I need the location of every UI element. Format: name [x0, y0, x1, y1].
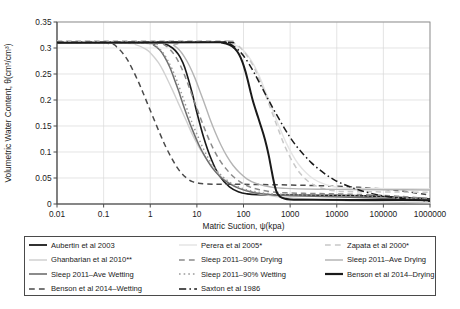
legend-item-label: Zapata et al 2000* — [347, 241, 409, 250]
legend-line-swatch — [178, 240, 198, 250]
legend-item-label: Sleep 2011–Ave Wetting — [51, 270, 134, 279]
legend-line-swatch — [28, 284, 48, 294]
svg-text:1000: 1000 — [281, 209, 300, 219]
svg-text:100: 100 — [237, 209, 251, 219]
svg-text:0.1: 0.1 — [98, 209, 110, 219]
svg-text:0.3: 0.3 — [40, 43, 52, 53]
svg-text:0.15: 0.15 — [35, 121, 52, 131]
svg-text:1: 1 — [148, 209, 153, 219]
svg-text:0.25: 0.25 — [35, 69, 52, 79]
svg-text:Matric Suction, ψ(kpa): Matric Suction, ψ(kpa) — [203, 221, 285, 231]
legend-grid: Aubertin et al 2003Perera et al 2005*Zap… — [25, 237, 435, 296]
legend-item[interactable]: Benson et al 2014–Drying — [324, 267, 440, 282]
legend-item-label: Aubertin et al 2003 — [51, 241, 115, 250]
svg-text:100000: 100000 — [370, 209, 398, 219]
legend-line-swatch — [324, 240, 344, 250]
legend-item-label: Sleep 2011–Ave Drying — [347, 255, 426, 264]
legend-line-swatch — [28, 240, 48, 250]
svg-text:0.2: 0.2 — [40, 95, 52, 105]
y-tick-labels: 00.050.10.150.20.250.30.35 — [35, 17, 52, 209]
svg-text:0.05: 0.05 — [35, 173, 52, 183]
plot-area: 0.010.11101001000100001000001000000 00.0… — [0, 0, 460, 232]
svg-text:10000: 10000 — [325, 209, 348, 219]
legend-line-swatch — [178, 255, 198, 265]
legend-item-label: Benson et al 2014–Drying — [347, 270, 434, 279]
legend-item[interactable]: Perera et al 2005* — [178, 238, 324, 253]
legend-item[interactable]: Saxton et al 1986 — [178, 282, 324, 297]
legend-item[interactable]: Benson et al 2014–Wetting — [28, 282, 178, 297]
legend-line-swatch — [28, 269, 48, 279]
legend-item-label: Benson et al 2014–Wetting — [51, 284, 142, 293]
svg-text:0.35: 0.35 — [35, 17, 52, 27]
legend-line-swatch — [28, 255, 48, 265]
legend-item[interactable]: Ghanbarian et al 2010** — [28, 253, 178, 268]
svg-text:0: 0 — [47, 199, 52, 209]
legend-item-label: Sleep 2011–90% Drying — [201, 255, 282, 264]
svg-text:Volumetric Water Content, θ(cm: Volumetric Water Content, θ(cm³/cm³) — [3, 43, 13, 182]
svg-text:1000000: 1000000 — [414, 209, 447, 219]
legend-item[interactable]: Zapata et al 2000* — [324, 238, 440, 253]
swcc-line-chart: 0.010.11101001000100001000001000000 00.0… — [0, 0, 460, 232]
legend-item-label: Saxton et al 1986 — [201, 284, 260, 293]
svg-text:0.01: 0.01 — [49, 209, 66, 219]
legend-line-swatch — [324, 269, 344, 279]
chart-figure: 0.010.11101001000100001000001000000 00.0… — [0, 0, 460, 309]
legend-item-label: Sleep 2011–90% Wetting — [201, 270, 286, 279]
x-tick-labels: 0.010.11101001000100001000001000000 — [49, 209, 447, 219]
legend-item-label: Ghanbarian et al 2010** — [51, 255, 132, 264]
legend-item-label: Perera et al 2005* — [201, 241, 262, 250]
legend-item[interactable]: Sleep 2011–Ave Wetting — [28, 267, 178, 282]
svg-text:10: 10 — [192, 209, 202, 219]
svg-text:0.1: 0.1 — [40, 147, 52, 157]
legend-item[interactable]: Sleep 2011–Ave Drying — [324, 253, 440, 268]
legend-item[interactable]: Sleep 2011–90% Wetting — [178, 267, 324, 282]
legend-line-swatch — [178, 269, 198, 279]
legend-item[interactable]: Sleep 2011–90% Drying — [178, 253, 324, 268]
chart-legend: Aubertin et al 2003Perera et al 2005*Zap… — [24, 236, 436, 296]
legend-item[interactable]: Aubertin et al 2003 — [28, 238, 178, 253]
legend-line-swatch — [178, 284, 198, 294]
legend-line-swatch — [324, 255, 344, 265]
